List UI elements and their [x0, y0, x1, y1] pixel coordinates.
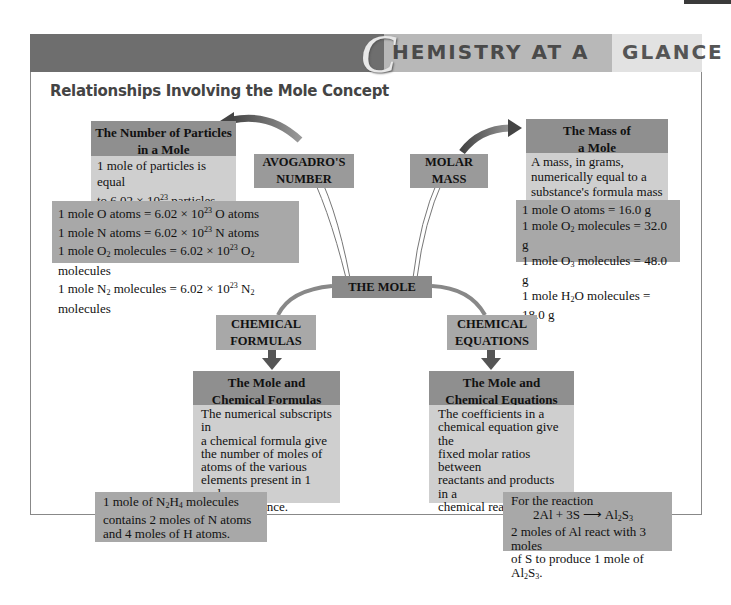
formulas-desc-line: a chemical formula give — [201, 434, 332, 447]
mass-example-3: 1 mole O3 molecules = 48.0 g — [522, 253, 674, 288]
formulas-example-line2: contains 2 moles of N atoms — [103, 513, 259, 527]
equations-description: The coefficients in a chemical equation … — [429, 405, 574, 503]
chemical-formulas-line2: FORMULAS — [230, 333, 302, 350]
equations-title-box: The Mole and Chemical Equations — [429, 371, 574, 405]
molar-mass-line2: MASS — [432, 171, 467, 188]
formulas-example-line3: and 4 moles of H atoms. — [103, 527, 259, 541]
particles-title-box: The Number of Particles in a Mole — [91, 121, 236, 156]
chemical-formulas-label: CHEMICAL FORMULAS — [216, 315, 316, 350]
particles-examples: 1 mole O atoms = 6.02 × 1023 O atoms 1 m… — [52, 201, 299, 263]
the-mole-label: THE MOLE — [332, 276, 432, 298]
equations-title-line1: The Mole and — [429, 374, 574, 391]
molar-mass-arrow — [462, 128, 512, 152]
chemical-formulas-line1: CHEMICAL — [231, 316, 301, 333]
mass-title-box: The Mass of a Mole — [526, 119, 668, 153]
formulas-desc-line: the number of moles of — [201, 447, 332, 460]
formulas-example-line1: 1 mole of N2H4 molecules — [103, 495, 259, 513]
down-arrow-icon — [481, 358, 501, 370]
formulas-desc-line: atoms of the various — [201, 460, 332, 473]
equations-example-line3: 2 moles of Al react with 3 moles — [511, 525, 664, 552]
formulas-example: 1 mole of N2H4 molecules contains 2 mole… — [95, 492, 267, 542]
the-mole-text: THE MOLE — [348, 279, 416, 296]
mass-example-4: 1 mole H2O molecules = 18.0 g — [522, 288, 674, 323]
chemical-equations-line1: CHEMICAL — [457, 316, 527, 333]
arrow-head-icon — [508, 119, 522, 137]
chemical-equations-line2: EQUATIONS — [455, 333, 529, 350]
avogadro-number-label: AVOGADRO'S NUMBER — [254, 154, 354, 188]
mass-desc-line1: A mass, in grams, — [531, 154, 663, 169]
mass-examples: 1 mole O atoms = 16.0 g 1 mole O2 molecu… — [516, 200, 680, 262]
particles-example-2: 1 mole N atoms = 6.02 × 1023 N atoms — [58, 222, 293, 241]
avogadro-line2: NUMBER — [276, 171, 332, 188]
equations-example-intro: For the reaction — [511, 494, 664, 508]
down-arrow-icon — [262, 358, 282, 370]
formulas-desc-line: The numerical subscripts in — [201, 407, 332, 434]
reaction-equation: 2Al + 3S ⟶ Al2S3 — [511, 508, 664, 526]
particles-example-1: 1 mole O atoms = 6.02 × 1023 O atoms — [58, 203, 293, 222]
avogadro-arrow — [232, 118, 300, 140]
formulas-title-line1: The Mole and — [193, 374, 340, 391]
particles-desc-line1: 1 mole of particles is equal — [97, 158, 230, 190]
particles-example-4: 1 mole N2 molecules = 6.02 × 1023 N2 mol… — [58, 278, 293, 316]
mass-example-2: 1 mole O2 molecules = 32.0 g — [522, 218, 674, 253]
molar-mass-label: MOLAR MASS — [410, 154, 488, 188]
formulas-title-box: The Mole and Chemical Formulas — [193, 371, 340, 405]
equations-example: For the reaction 2Al + 3S ⟶ Al2S3 2 mole… — [503, 492, 672, 551]
particles-example-3: 1 mole O2 molecules = 6.02 × 1023 O2 mol… — [58, 240, 293, 278]
reaction-arrow-icon: ⟶ — [583, 507, 602, 522]
equations-example-line4: of S to produce 1 mole of Al2S3. — [511, 552, 664, 583]
mass-desc-line2: numerically equal to a — [531, 169, 663, 184]
mass-example-1: 1 mole O atoms = 16.0 g — [522, 202, 674, 218]
mass-title-line1: The Mass of — [526, 122, 668, 139]
formulas-description: The numerical subscripts in a chemical f… — [193, 405, 340, 503]
equations-desc-line: The coefficients in a — [438, 407, 565, 420]
mass-desc-line3: substance's formula mass — [531, 184, 663, 199]
avogadro-line1: AVOGADRO'S — [263, 154, 346, 171]
equations-desc-line: fixed molar ratios between — [438, 447, 565, 474]
particles-description: 1 mole of particles is equal to 6.02 × 1… — [91, 156, 236, 201]
mass-description: A mass, in grams, numerically equal to a… — [526, 153, 668, 200]
molar-mass-line1: MOLAR — [425, 154, 473, 171]
particles-title-line1: The Number of Particles — [91, 124, 236, 141]
chemical-equations-label: CHEMICAL EQUATIONS — [447, 315, 537, 350]
equations-desc-line: chemical equation give the — [438, 420, 565, 447]
